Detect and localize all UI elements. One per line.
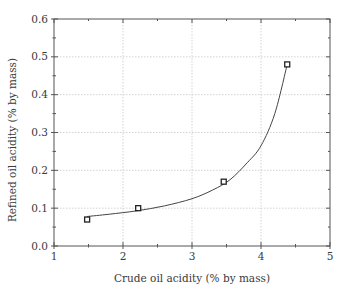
y-tick-label: 0.1	[31, 202, 48, 214]
data-point-marker	[221, 179, 226, 184]
gridlines	[54, 19, 330, 246]
y-tick-label: 0.5	[31, 50, 48, 62]
fitted-curve-line	[87, 64, 287, 216]
x-tick-label: 3	[189, 250, 196, 262]
y-tick-label: 0.2	[31, 164, 48, 176]
y-tick-label: 0.4	[31, 88, 48, 100]
y-tick-label: 0.0	[31, 240, 48, 252]
x-tick-label: 5	[327, 250, 334, 262]
chart: 123450.00.10.20.30.40.50.6 Crude oil aci…	[0, 0, 347, 293]
data-points	[85, 62, 290, 222]
data-point-marker	[85, 217, 90, 222]
y-tick-label: 0.6	[31, 13, 48, 25]
fitted-curve	[87, 64, 287, 216]
axis-ticks	[51, 19, 330, 249]
tick-labels: 123450.00.10.20.30.40.50.6	[31, 13, 333, 263]
x-tick-label: 1	[51, 250, 58, 262]
data-point-marker	[136, 206, 141, 211]
data-point-marker	[285, 62, 290, 67]
x-axis-title: Crude oil acidity (% by mass)	[114, 272, 270, 284]
x-tick-label: 2	[120, 250, 127, 262]
y-axis-title: Refined oil acidity (% by mass)	[6, 58, 18, 222]
x-tick-label: 4	[258, 250, 265, 262]
y-tick-label: 0.3	[31, 126, 48, 138]
